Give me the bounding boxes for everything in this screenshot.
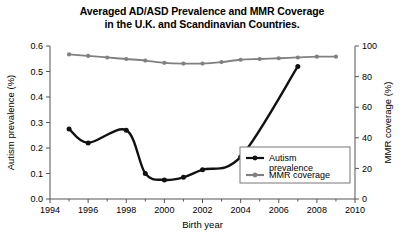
data-point-1-2	[124, 128, 129, 133]
y-tick-label-right-3: 60	[362, 102, 372, 112]
data-point-2-2	[105, 55, 109, 59]
data-point-2-12	[296, 55, 300, 59]
data-point-1-5	[181, 175, 186, 180]
y-tick-label-left-2: 0.2	[30, 143, 43, 153]
series-2	[67, 52, 338, 65]
legend: AutismprevalenceMMR coverage	[240, 147, 350, 183]
data-point-2-8	[219, 60, 223, 64]
data-point-1-8	[295, 64, 300, 69]
data-point-2-4	[143, 58, 147, 62]
x-tick-label-2002: 2002	[192, 205, 212, 215]
x-tick-label-1998: 1998	[116, 205, 136, 215]
y-tick-label-left-4: 0.4	[30, 92, 43, 102]
x-tick-label-1994: 1994	[40, 205, 60, 215]
legend-label-1: Autism	[269, 153, 297, 163]
y-tick-label-left-3: 0.3	[30, 118, 43, 128]
y-tick-label-right-0: 0	[362, 194, 367, 204]
legend-swatch-marker-2	[253, 173, 258, 178]
data-point-2-13	[315, 55, 319, 59]
chart-plot: 1994199619982000200220042006200820100.00…	[0, 0, 404, 240]
x-tick-label-2010: 2010	[345, 205, 365, 215]
data-point-2-6	[181, 61, 185, 65]
x-tick-label-2006: 2006	[269, 205, 289, 215]
data-point-2-0	[67, 52, 71, 56]
x-tick-label-2008: 2008	[307, 205, 327, 215]
data-point-2-9	[239, 58, 243, 62]
y-tick-label-right-1: 20	[362, 164, 372, 174]
y-tick-label-left-0: 0.0	[30, 194, 43, 204]
y-tick-label-right-4: 80	[362, 72, 372, 82]
y-tick-label-left-6: 0.6	[30, 41, 43, 51]
legend-label-2: MMR coverage	[269, 170, 330, 180]
data-point-2-3	[124, 57, 128, 61]
y-tick-label-left-1: 0.1	[30, 169, 43, 179]
x-tick-label-1996: 1996	[78, 205, 98, 215]
data-point-2-10	[258, 57, 262, 61]
data-point-2-11	[277, 56, 281, 60]
data-point-1-0	[67, 126, 72, 131]
y-tick-label-right-2: 40	[362, 133, 372, 143]
x-tick-label-2004: 2004	[231, 205, 251, 215]
y-tick-label-left-5: 0.5	[30, 67, 43, 77]
data-point-1-1	[86, 140, 91, 145]
chart-container: Averaged AD/ASD Prevalence and MMR Cover…	[0, 0, 404, 240]
data-point-1-3	[143, 171, 148, 176]
data-point-2-7	[200, 61, 204, 65]
x-axis-title: Birth year	[182, 219, 223, 230]
y-axis-right-title: MMR coverage (%)	[382, 82, 393, 164]
legend-swatch-marker-1	[253, 156, 258, 161]
y-axis-left-title: Autism prevalence (%)	[5, 75, 16, 171]
data-point-2-1	[86, 54, 90, 58]
x-tick-label-2000: 2000	[154, 205, 174, 215]
data-point-2-14	[334, 55, 338, 59]
data-point-2-5	[162, 61, 166, 65]
y-tick-label-right-5: 100	[362, 41, 377, 51]
data-point-1-6	[200, 167, 205, 172]
data-point-1-4	[162, 177, 167, 182]
